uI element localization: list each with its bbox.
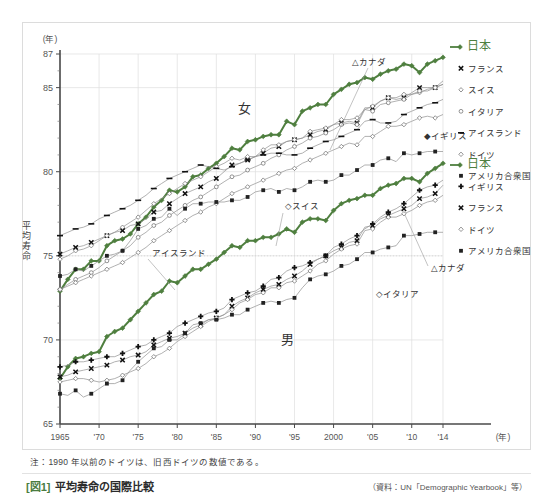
inline-annotation: △カナダ [431,263,465,273]
data-point [105,259,109,263]
data-point-japan [269,132,274,137]
inline-annotation: △カナダ [352,57,386,67]
y-tick-label: 87 [43,49,53,59]
data-point [370,134,374,138]
x-tick-label: '70 [94,432,105,442]
x-tick-label: '90 [250,432,261,442]
data-point [230,156,234,160]
data-point [198,210,202,214]
data-point [386,215,390,219]
data-point [293,296,297,300]
data-point [459,249,463,253]
data-point [355,168,359,172]
data-point [199,195,203,199]
figure-source: （資料：UN「Demographic Yearbook」等） [368,481,527,492]
data-point [261,188,265,192]
data-point [168,214,172,218]
data-point [120,351,125,356]
data-point [73,376,77,380]
data-point [230,198,234,202]
data-point [402,234,406,238]
legend-female-item-label: アイスランド [468,128,522,138]
figure-title: 平均寿命の国際比較 [55,481,154,493]
series-line [60,180,443,367]
data-point-japan [316,216,321,221]
data-point [324,131,328,135]
legend-male-item-label: ドイツ [468,225,495,235]
data-point [402,98,406,102]
legend-male-item-label-japan: 日本 [467,157,491,171]
legend-female-item-label: アメリカ合衆国 [468,171,531,181]
annotation-leader-line [405,215,428,266]
data-point [277,143,281,147]
x-tick-label: '75 [133,432,144,442]
data-point [245,290,250,295]
data-point [104,354,109,359]
data-point [371,163,375,167]
data-point [458,184,463,189]
y-tick-label: 85 [43,83,53,93]
data-point [214,318,218,322]
data-point [417,116,421,120]
data-point [245,297,249,301]
data-point [355,257,359,261]
data-point [136,366,140,370]
data-point [324,180,328,184]
x-tick-label: '95 [289,432,300,442]
y-tick-label: 80 [43,167,53,177]
data-point [199,202,203,206]
data-point [121,249,125,253]
data-point [433,116,437,120]
data-point [418,89,422,93]
data-point [339,144,343,148]
data-point [324,272,328,276]
data-point [433,198,437,202]
data-point [292,166,296,170]
data-point [246,308,250,312]
legend-female-item-label: イタリア [468,107,504,117]
data-point [57,364,62,369]
data-point [230,313,234,317]
data-point [433,86,437,90]
series-line [60,232,443,397]
data-point [136,344,141,349]
data-point [198,314,203,319]
data-point [459,109,463,113]
inline-annotation: ◇イタリア [376,289,419,299]
x-tick-label: '05 [367,432,378,442]
data-point [58,257,62,261]
data-point [214,309,219,314]
data-point [293,188,297,192]
y-axis-title-char: 平 [22,221,31,231]
data-point [58,380,62,384]
data-point [73,281,77,285]
data-point [418,232,422,236]
data-point [89,264,93,268]
data-point [58,392,62,396]
data-point [292,279,296,283]
life-expectancy-line-chart: 6570758085871965'70'75'80'85'90'952000'0… [0,0,553,455]
figure-footer: 注：1990 年以前のドイツは、旧西ドイツの数値である。 [図1]平均寿命の国際… [22,455,531,496]
data-point [324,126,328,130]
data-point [152,346,156,350]
data-point [246,195,250,199]
data-point [324,151,328,155]
data-point [386,156,390,160]
x-tick-label: 1965 [51,432,70,442]
data-point [230,191,234,195]
data-point [308,158,312,162]
figure-note: 注：1990 年以前のドイツは、旧西ドイツの数値である。 [30,455,531,467]
data-point [245,185,249,189]
data-point [308,277,312,281]
x-tick-label: 2000 [324,432,343,442]
data-point [105,382,109,386]
data-point [183,203,187,207]
data-point [402,207,406,211]
y-tick-label: 70 [43,335,53,345]
data-point [386,101,390,105]
data-point [120,373,124,377]
x-tick-label: '14 [437,432,448,442]
data-point [459,88,463,92]
data-point [261,178,265,182]
data-point [58,274,62,278]
